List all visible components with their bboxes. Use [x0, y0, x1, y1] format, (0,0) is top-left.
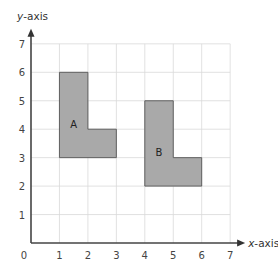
x-tick-label: 6	[199, 250, 205, 261]
shape-label-b: B	[156, 147, 163, 158]
shape-a	[59, 72, 116, 157]
x-axis-title: x-axis	[247, 237, 278, 249]
x-tick-label: 2	[85, 250, 91, 261]
y-tick-label: 4	[19, 124, 25, 135]
x-tick-label: 1	[56, 250, 62, 261]
coordinate-diagram: AB x-axis y-axis 012345671234567	[0, 0, 278, 269]
x-axis-arrow-icon	[237, 240, 245, 247]
y-tick-label: 1	[19, 210, 25, 221]
x-tick-label: 7	[227, 250, 233, 261]
x-tick-label: 5	[170, 250, 176, 261]
y-tick-label: 5	[19, 96, 25, 107]
x-tick-label: 4	[142, 250, 148, 261]
y-tick-label: 6	[19, 67, 25, 78]
y-axis-arrow-icon	[28, 29, 35, 37]
y-tick-label: 7	[19, 39, 25, 50]
x-tick-label: 0	[21, 250, 27, 261]
y-tick-label: 3	[19, 153, 25, 164]
x-tick-label: 3	[113, 250, 119, 261]
shape-label-a: A	[70, 119, 77, 130]
y-axis-title: y-axis	[16, 10, 48, 22]
y-tick-label: 2	[19, 181, 25, 192]
shape-b	[145, 101, 202, 186]
